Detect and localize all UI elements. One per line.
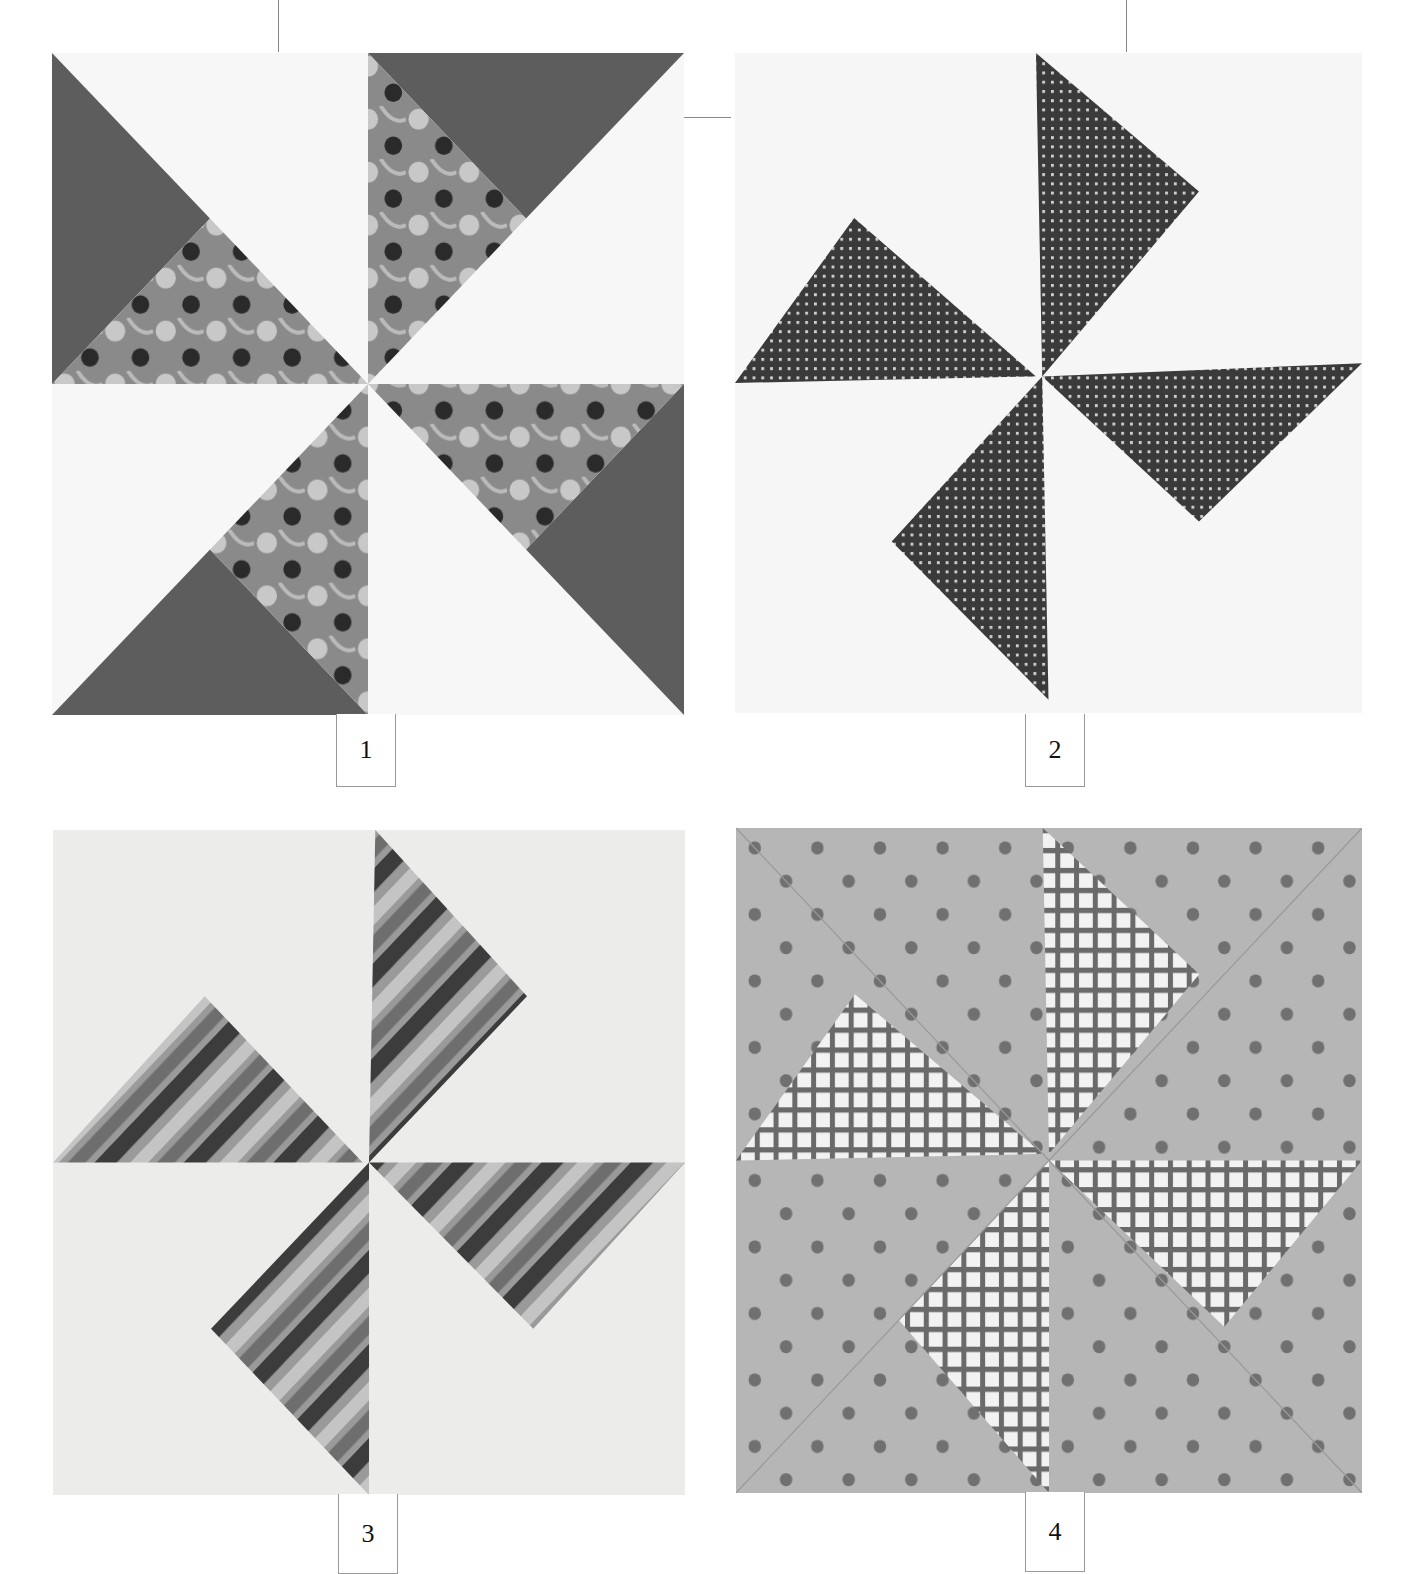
quilt-block-3 bbox=[53, 830, 685, 1495]
quilt-block-1 bbox=[52, 53, 684, 715]
figure-label-4: 4 bbox=[1025, 1492, 1085, 1572]
figure-label-1: 1 bbox=[336, 714, 396, 787]
quilt-block-4 bbox=[736, 828, 1362, 1493]
figure-label-2: 2 bbox=[1025, 714, 1085, 787]
frame-line-left bbox=[278, 0, 279, 52]
frame-line-right bbox=[1126, 0, 1127, 52]
frame-line-mid bbox=[683, 117, 731, 118]
figure-label-3: 3 bbox=[338, 1494, 398, 1574]
quilt-block-2 bbox=[735, 53, 1362, 713]
